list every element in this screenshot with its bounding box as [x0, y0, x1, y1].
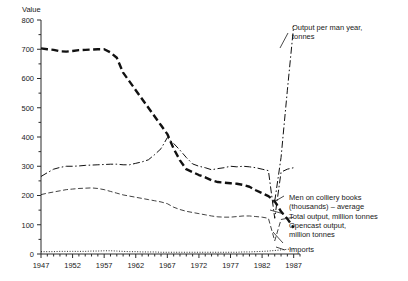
- annotation-men-colliery: Men on colliery books (thousands) – aver…: [289, 193, 364, 211]
- chart-svg: 0100200300400500600700800 19471952195719…: [0, 0, 408, 281]
- y-axis-ticks: [37, 20, 41, 254]
- y-tick-label: 300: [21, 162, 34, 171]
- annotation-output-per-man-line1: Output per man year,: [292, 23, 362, 32]
- series-group: [41, 26, 294, 252]
- annotation-output-per-man-line2: tonnes: [292, 32, 315, 41]
- chart-container: 0100200300400500600700800 19471952195719…: [0, 0, 408, 281]
- y-tick-label: 0: [30, 250, 34, 259]
- y-tick-label: 200: [21, 191, 34, 200]
- x-tick-label: 1957: [96, 261, 113, 270]
- annotation-opencast-line2: million tonnes: [289, 230, 335, 239]
- annotation-output-per-man: Output per man year, tonnes: [292, 23, 362, 41]
- x-tick-label: 1947: [33, 261, 50, 270]
- y-axis-tick-labels: 0100200300400500600700800: [21, 16, 34, 259]
- x-tick-label: 1972: [191, 261, 208, 270]
- series-line-3: [41, 188, 294, 241]
- annotation-opencast-line1: Opencast output,: [289, 221, 346, 230]
- y-tick-label: 500: [21, 104, 34, 113]
- annotation-imports-line1: Imports: [289, 245, 314, 254]
- x-tick-label: 1967: [159, 261, 176, 270]
- x-axis-tick-labels: 194719521957196219671972197719821987: [33, 261, 302, 270]
- annotation-opencast: Opencast output, million tonnes: [289, 221, 346, 239]
- x-tick-label: 1962: [127, 261, 144, 270]
- x-tick-label: 1952: [64, 261, 81, 270]
- series-line-4: [41, 249, 294, 253]
- leader-output-per-man: [280, 33, 288, 48]
- annotation-men-colliery-line2: (thousands) – average: [289, 202, 364, 211]
- x-axis-ticks: [41, 254, 300, 258]
- y-tick-label: 700: [21, 45, 34, 54]
- leader-men-colliery: [272, 196, 284, 203]
- annotation-total-output: Total output, million tonnes: [289, 212, 378, 221]
- y-tick-label: 100: [21, 221, 34, 230]
- y-tick-label: 600: [21, 74, 34, 83]
- leader-opencast: [273, 232, 283, 243]
- series-line-2: [275, 26, 294, 202]
- series-line-1: [41, 138, 294, 219]
- x-tick-label: 1977: [222, 261, 239, 270]
- y-tick-label: 400: [21, 133, 34, 142]
- y-tick-label: 800: [21, 16, 34, 25]
- annotation-total-output-line1: Total output, million tonnes: [289, 212, 378, 221]
- x-tick-label: 1982: [254, 261, 271, 270]
- annotation-men-colliery-line1: Men on colliery books: [289, 193, 362, 202]
- x-tick-label: 1987: [285, 261, 302, 270]
- y-axis-caption: Value: [22, 5, 41, 14]
- annotation-imports: Imports: [289, 245, 314, 254]
